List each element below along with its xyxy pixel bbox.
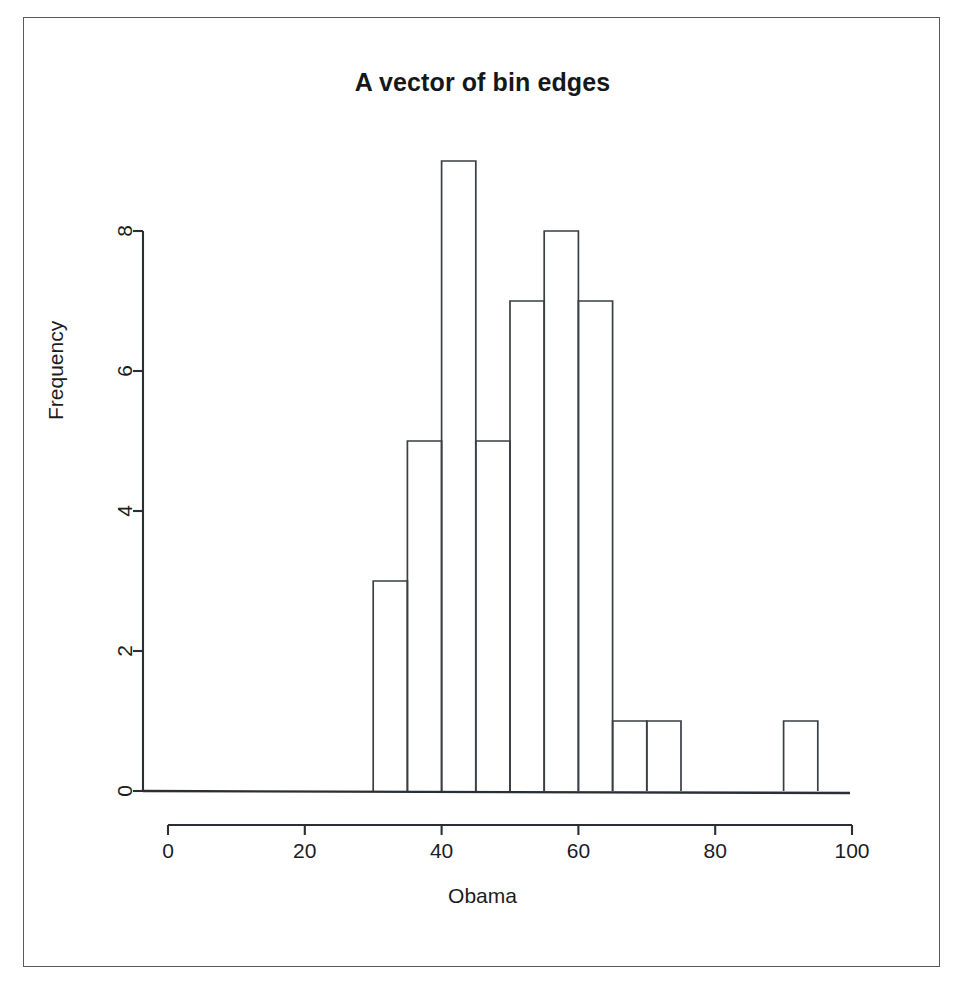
histogram-plot: A vector of bin edges 02468020406080100 … (0, 0, 965, 991)
histogram-bars (373, 161, 818, 791)
y-axis-title: Frequency (44, 321, 68, 420)
histogram-bar (407, 441, 441, 791)
x-axis-tick-label: 0 (162, 839, 174, 862)
axis-tick-labels: 02468020406080100 (113, 225, 870, 862)
histogram-bar (373, 581, 407, 791)
x-axis-tick-label: 80 (704, 839, 727, 862)
histogram-baseline (143, 791, 850, 793)
y-axis-tick-label: 0 (113, 785, 136, 797)
y-axis-tick-label: 4 (113, 505, 136, 517)
histogram-bar (613, 721, 647, 791)
x-axis-tick-label: 60 (567, 839, 590, 862)
histogram-bar (510, 301, 544, 791)
y-axis-tick-label: 2 (113, 645, 136, 657)
histogram-bar (784, 721, 818, 791)
y-axis-tick-label: 6 (113, 365, 136, 377)
histogram-bar (476, 441, 510, 791)
x-axis-tick-label: 100 (834, 839, 869, 862)
plot-svg-canvas: 02468020406080100 (0, 0, 965, 991)
histogram-bar (544, 231, 578, 791)
histogram-bar (442, 161, 476, 791)
y-axis-tick-label: 8 (113, 225, 136, 237)
histogram-bar (647, 721, 681, 791)
caption-bleed-text (26, 971, 926, 989)
histogram-bar (578, 301, 612, 791)
x-axis-tick-label: 20 (293, 839, 316, 862)
x-axis-title: Obama (0, 884, 965, 908)
x-axis-tick-label: 40 (430, 839, 453, 862)
plot-axes (133, 231, 852, 835)
